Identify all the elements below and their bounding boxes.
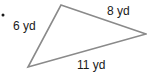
side-label-top: 8 yd bbox=[107, 4, 130, 18]
side-label-left: 6 yd bbox=[13, 19, 36, 33]
bullet-dot bbox=[2, 14, 5, 17]
side-label-bottom: 11 yd bbox=[77, 58, 105, 72]
triangle-diagram: 6 yd 8 yd 11 yd bbox=[0, 0, 147, 75]
